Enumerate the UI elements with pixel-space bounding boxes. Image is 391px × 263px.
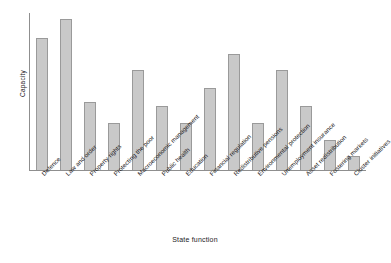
bar: [156, 106, 168, 170]
bar: [36, 38, 48, 170]
bar-slot: [54, 13, 78, 170]
y-axis-title: Capacity: [19, 54, 26, 114]
x-axis-tick-labels: DefenceLaw and orderProperty rightsProte…: [30, 172, 366, 234]
bar-slot: [198, 13, 222, 170]
plot-area: [30, 13, 366, 170]
bar: [300, 106, 312, 170]
x-axis-title: State function: [0, 236, 390, 243]
bar: [60, 19, 72, 170]
bar-slot: [30, 13, 54, 170]
